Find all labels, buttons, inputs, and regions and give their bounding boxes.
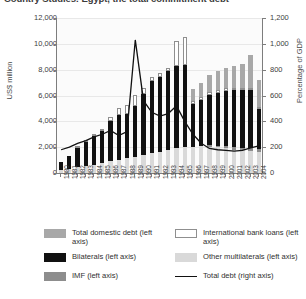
y-tick-label-right: 1,000 <box>270 39 306 48</box>
bar-segment <box>257 109 261 149</box>
bar-column <box>117 108 121 173</box>
bar-segment <box>248 55 252 89</box>
legend-item[interactable]: Other multilaterals (left axis) <box>175 252 306 266</box>
y-tickmark-right <box>263 18 266 19</box>
bar-column <box>141 88 145 173</box>
bar-segment <box>207 75 211 92</box>
plot-area: US$ million Percentage of GDP 02,0004,00… <box>0 14 306 190</box>
legend-swatch-ibl <box>175 229 197 238</box>
bar-segment <box>84 142 88 166</box>
y-tickmark-left <box>54 173 57 174</box>
bar-segment <box>240 90 244 147</box>
legend-swatch-oml <box>175 253 197 262</box>
bar-segment <box>257 80 261 107</box>
bar-segment <box>248 90 252 148</box>
bar-column <box>248 55 252 173</box>
bar-column <box>199 83 203 173</box>
bar-column <box>174 41 178 173</box>
bar-column <box>166 68 170 173</box>
x-tickmark <box>258 174 259 177</box>
legend-column-right: International bank loans (left axis)Othe… <box>175 228 306 290</box>
x-tickmark <box>151 174 152 177</box>
bar-column <box>158 73 162 173</box>
x-tickmark <box>143 174 144 177</box>
legend-label: Total domestic debt (left axis) <box>72 228 164 247</box>
plot-canvas <box>56 18 263 174</box>
y-tick-label-left: 0 <box>17 168 57 177</box>
bar-segment <box>133 106 137 156</box>
bar-segment <box>216 93 220 146</box>
chart-title: Country Studies: Egypt, the total commit… <box>4 0 304 4</box>
legend-item[interactable]: IMF (left axis) <box>44 271 164 285</box>
bar-segment <box>133 95 137 107</box>
y-tick-label-left: 10,000 <box>17 39 57 48</box>
bar-segment <box>191 89 195 101</box>
x-tickmark <box>233 174 234 177</box>
bar-segment <box>117 108 121 115</box>
x-tickmark <box>175 174 176 177</box>
bar-segment <box>166 71 170 150</box>
x-tickmark <box>101 174 102 177</box>
bar-column <box>133 95 137 173</box>
bar-segment <box>125 114 129 158</box>
bar-column <box>224 68 228 173</box>
x-tickmark <box>126 174 127 177</box>
legend-item[interactable]: International bank loans (left axis) <box>175 228 306 247</box>
legend-label: International bank loans (left axis) <box>203 228 306 247</box>
x-tickmark <box>77 174 78 177</box>
bar-segment <box>224 68 228 89</box>
x-tickmark <box>85 174 86 177</box>
legend-item[interactable]: Total domestic debt (left axis) <box>44 228 164 247</box>
legend-label: Bilaterals (left axis) <box>72 252 164 261</box>
y-tick-label-right: 0 <box>270 168 306 177</box>
x-tickmark <box>241 174 242 177</box>
x-tick-label: 2004 <box>260 165 267 179</box>
chart-page: Country Studies: Egypt, the total commit… <box>0 0 306 299</box>
legend-swatch-imf <box>44 272 66 281</box>
bar-segment <box>183 37 187 64</box>
bar-segment <box>232 66 236 89</box>
x-tickmark <box>250 174 251 177</box>
x-tickmark <box>93 174 94 177</box>
bar-segment <box>141 94 145 155</box>
bar-column <box>216 71 220 173</box>
x-tickmark <box>217 174 218 177</box>
x-tickmark <box>200 174 201 177</box>
legend-column-left: Total domestic debt (left axis)Bilateral… <box>44 228 164 290</box>
y-tick-label-left: 2,000 <box>17 142 57 151</box>
bar-segment <box>232 90 236 147</box>
y-tick-label-left: 4,000 <box>17 116 57 125</box>
y-tick-label-left: 8,000 <box>17 65 57 74</box>
bar-segment <box>183 65 187 148</box>
legend-label: IMF (left axis) <box>72 271 164 280</box>
bar-column <box>232 66 236 173</box>
bar-column <box>191 89 195 173</box>
legend-label: Total debt (right axis) <box>203 271 306 280</box>
y-tick-label-right: 200 <box>270 142 306 151</box>
bar-segment <box>108 121 112 161</box>
chart-legend: Total domestic debt (left axis)Bilateral… <box>0 228 306 299</box>
bar-segment <box>174 41 178 66</box>
bar-segment <box>240 64 244 89</box>
x-tickmark <box>118 174 119 177</box>
y-tick-label-left: 12,000 <box>17 13 57 22</box>
bar-segment <box>92 136 96 164</box>
x-tickmark <box>134 174 135 177</box>
bar-segment <box>125 105 129 114</box>
bar-segment <box>174 66 178 149</box>
y-tickmark-right <box>263 96 266 97</box>
y-tick-label-right: 1,200 <box>270 13 306 22</box>
bar-segment <box>199 83 203 97</box>
bar-column <box>240 64 244 173</box>
x-tickmark <box>184 174 185 177</box>
legend-swatch-line <box>175 276 197 277</box>
x-tickmark <box>110 174 111 177</box>
legend-item[interactable]: Bilaterals (left axis) <box>44 252 164 266</box>
legend-item[interactable]: Total debt (right axis) <box>175 271 306 285</box>
x-tickmark <box>68 174 69 177</box>
bar-segment <box>150 81 154 153</box>
bar-segment <box>100 131 104 163</box>
x-tickmark <box>167 174 168 177</box>
bar-group <box>57 18 263 173</box>
x-tickmark <box>159 174 160 177</box>
